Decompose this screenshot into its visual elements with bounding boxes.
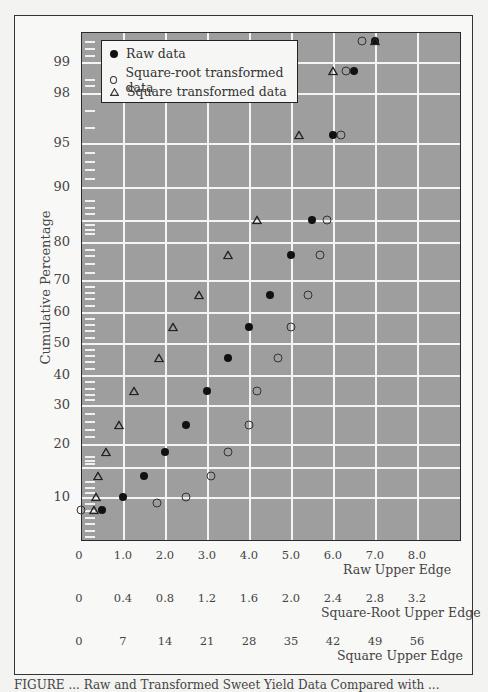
horizontal-gridline [82, 312, 460, 314]
triangle-marker-icon [370, 37, 380, 46]
horizontal-gridline [82, 187, 460, 189]
open-circle-marker-icon [341, 67, 350, 76]
open-circle-marker-icon [77, 506, 86, 515]
open-circle-marker-icon [287, 323, 296, 332]
legend-label-raw: Raw data [126, 46, 186, 61]
vertical-gridline [417, 33, 419, 540]
legend-item-raw: Raw data [110, 46, 186, 61]
horizontal-gridline [82, 497, 460, 499]
y-minor-tick [85, 286, 95, 288]
raw-x-tick-label: 4.0 [240, 548, 258, 562]
open-circle-marker-icon [152, 499, 161, 508]
y-minor-tick [85, 456, 95, 458]
filled-circle-marker-icon [245, 323, 253, 331]
sqrt-x-tick-label: 2.8 [366, 591, 384, 605]
open-circle-marker-icon [322, 216, 331, 225]
y-minor-tick [85, 523, 95, 525]
y-minor-tick [85, 178, 95, 180]
vertical-gridline [375, 33, 377, 540]
y-minor-tick [85, 330, 95, 332]
horizontal-gridline [82, 375, 460, 377]
legend-label-square: Square transformed data [127, 84, 287, 99]
triangle-marker-icon [114, 421, 124, 430]
y-minor-tick [85, 530, 95, 532]
horizontal-gridline [82, 242, 460, 244]
y-minor-tick [85, 324, 95, 326]
open-circle-marker-icon [337, 131, 346, 140]
filled-circle-icon [110, 50, 118, 58]
y-minor-tick [85, 399, 95, 401]
y-tick-label: 70 [30, 272, 70, 287]
y-minor-tick [85, 361, 95, 363]
raw-x-tick-label: 1.0 [114, 548, 132, 562]
sqrt-x-tick-label: 2.4 [324, 591, 342, 605]
raw-x-tick-label: 2.0 [156, 548, 174, 562]
raw-axis-title: Raw Upper Edge [343, 562, 451, 577]
open-circle-marker-icon [303, 291, 312, 300]
filled-circle-marker-icon [161, 448, 169, 456]
y-minor-tick [85, 487, 95, 489]
triangle-marker-icon [223, 251, 233, 260]
horizontal-gridline [82, 467, 460, 469]
triangle-marker-icon [294, 131, 304, 140]
horizontal-gridline [82, 220, 460, 222]
y-tick-label: 90 [30, 179, 70, 194]
plot-area [81, 32, 461, 541]
open-circle-marker-icon [316, 251, 325, 260]
y-minor-tick [85, 460, 95, 462]
square-x-tick-label: 7 [119, 634, 126, 648]
square-x-tick-label: 42 [326, 634, 341, 648]
vertical-gridline [207, 33, 209, 540]
sqrt-x-tick-label: 0.8 [156, 591, 174, 605]
open-circle-icon [110, 76, 117, 84]
filled-circle-marker-icon [287, 251, 295, 259]
y-minor-tick [85, 536, 95, 538]
raw-x-tick-label: 6.0 [324, 548, 342, 562]
raw-x-tick-label: 3.0 [198, 548, 216, 562]
filled-circle-marker-icon [224, 354, 232, 362]
horizontal-gridline [82, 444, 460, 446]
sqrt-x-tick-label: 1.2 [198, 591, 216, 605]
y-tick-label: 60 [30, 304, 70, 319]
open-circle-marker-icon [207, 472, 216, 481]
square-x-tick-label: 35 [284, 634, 299, 648]
y-minor-tick [85, 213, 95, 215]
y-tick-label: 10 [30, 489, 70, 504]
vertical-gridline [123, 33, 125, 540]
square-x-tick-label: 28 [242, 634, 257, 648]
filled-circle-marker-icon [119, 493, 127, 501]
sqrt-x-tick-label: 3.2 [408, 591, 426, 605]
filled-circle-marker-icon [98, 506, 106, 514]
triangle-marker-icon [101, 448, 111, 457]
legend: Raw data Square-root transformed data Sq… [101, 40, 298, 103]
filled-circle-marker-icon [266, 291, 274, 299]
triangle-marker-icon [328, 67, 338, 76]
y-minor-tick [85, 481, 95, 483]
open-circle-marker-icon [245, 421, 254, 430]
filled-circle-marker-icon [329, 131, 337, 139]
y-minor-tick [85, 200, 95, 202]
vertical-gridline [333, 33, 335, 540]
open-circle-marker-icon [224, 448, 233, 457]
triangle-marker-icon [89, 506, 99, 515]
y-minor-tick [85, 381, 95, 383]
triangle-marker-icon [194, 291, 204, 300]
y-minor-tick [85, 436, 95, 438]
open-circle-marker-icon [274, 354, 283, 363]
sqrt-x-tick-label: 0.4 [114, 591, 132, 605]
figure-caption: FIGURE ... Raw and Transformed Sweet Yie… [14, 678, 439, 692]
y-minor-tick [85, 272, 95, 274]
vertical-gridline [249, 33, 251, 540]
y-minor-tick [85, 368, 95, 370]
triangle-marker-icon [252, 216, 262, 225]
y-minor-tick [85, 79, 95, 81]
y-minor-tick [85, 255, 95, 257]
y-minor-tick [85, 388, 95, 390]
open-triangle-icon [110, 88, 119, 96]
y-minor-tick [85, 233, 95, 235]
horizontal-gridline [82, 405, 460, 407]
triangle-marker-icon [168, 323, 178, 332]
open-circle-marker-icon [253, 387, 262, 396]
y-tick-label: 80 [30, 234, 70, 249]
horizontal-gridline [82, 280, 460, 282]
